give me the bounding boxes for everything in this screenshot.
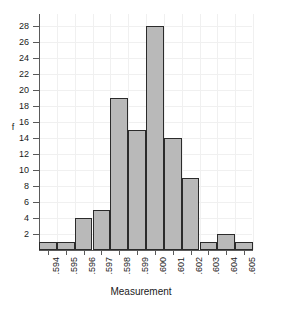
- x-tick-mark: [119, 250, 120, 255]
- x-tick-label: .596: [88, 257, 97, 275]
- x-tick-mark: [191, 250, 192, 255]
- x-tick-label: .604: [230, 257, 239, 275]
- x-tick-mark: [137, 250, 138, 255]
- x-tick-mark: [101, 250, 102, 255]
- y-tick-mark: [33, 154, 39, 155]
- y-tick-mark: [33, 186, 39, 187]
- x-axis-title: Measurement: [0, 286, 282, 297]
- x-tick-label: .601: [177, 257, 186, 275]
- y-tick-label: 24: [5, 54, 29, 63]
- x-tick-label: .599: [141, 257, 150, 275]
- y-tick-label: 2: [5, 230, 29, 239]
- y-tick-mark: [33, 90, 39, 91]
- x-tick-mark: [226, 250, 227, 255]
- x-tick-label: .600: [159, 257, 168, 275]
- y-tick-mark: [33, 74, 39, 75]
- y-tick-label: 22: [5, 70, 29, 79]
- histogram-bar: [200, 242, 218, 250]
- y-tick-mark: [33, 202, 39, 203]
- histogram-bar: [146, 26, 164, 250]
- histogram-bar: [217, 234, 235, 250]
- x-tick-label: .603: [212, 257, 221, 275]
- y-tick-label: 26: [5, 38, 29, 47]
- y-tick-label: 10: [5, 166, 29, 175]
- y-tick-mark: [33, 234, 39, 235]
- x-tick-mark: [244, 250, 245, 255]
- gridline-vertical: [253, 14, 254, 250]
- x-tick-label: .595: [70, 257, 79, 275]
- y-tick-label: 28: [5, 22, 29, 31]
- x-tick-label: .602: [195, 257, 204, 275]
- histogram-bar: [128, 130, 146, 250]
- y-tick-mark: [33, 26, 39, 27]
- y-tick-mark: [33, 42, 39, 43]
- x-tick-mark: [208, 250, 209, 255]
- x-tick-label: .594: [52, 257, 61, 275]
- x-tick-mark: [48, 250, 49, 255]
- histogram-bar: [39, 242, 57, 250]
- x-axis-line: [39, 250, 253, 251]
- x-tick-mark: [66, 250, 67, 255]
- histogram-bar: [110, 98, 128, 250]
- histogram-bar: [235, 242, 253, 250]
- histogram-bar: [164, 138, 182, 250]
- histogram-bar: [182, 178, 200, 250]
- y-tick-label: 18: [5, 102, 29, 111]
- y-tick-mark: [33, 58, 39, 59]
- y-tick-mark: [33, 122, 39, 123]
- y-tick-mark: [33, 218, 39, 219]
- y-tick-label: 16: [5, 118, 29, 127]
- histogram-bar: [75, 218, 93, 250]
- x-tick-label: .598: [123, 257, 132, 275]
- y-tick-label: 12: [5, 150, 29, 159]
- histogram-bar: [93, 210, 111, 250]
- y-tick-label: 8: [5, 182, 29, 191]
- x-tick-label: .605: [248, 257, 257, 275]
- y-tick-mark: [33, 106, 39, 107]
- y-tick-label: 6: [5, 198, 29, 207]
- y-tick-mark: [33, 170, 39, 171]
- x-tick-mark: [84, 250, 85, 255]
- y-tick-label: 20: [5, 86, 29, 95]
- bars-container: [39, 14, 253, 250]
- y-tick-label: 14: [5, 134, 29, 143]
- histogram-bar: [57, 242, 75, 250]
- x-tick-mark: [173, 250, 174, 255]
- histogram-figure: f Measurement 246810121416182022242628.5…: [0, 0, 282, 311]
- y-tick-label: 4: [5, 214, 29, 223]
- x-tick-label: .597: [105, 257, 114, 275]
- y-tick-mark: [33, 138, 39, 139]
- x-tick-mark: [155, 250, 156, 255]
